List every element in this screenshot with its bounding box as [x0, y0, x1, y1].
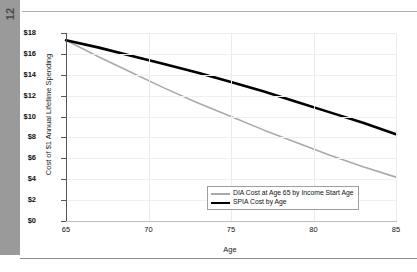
x-axis-tick-label: 85	[376, 226, 416, 234]
y-axis-tick-label: $2	[0, 196, 36, 204]
y-axis-tick-label: $10	[0, 113, 36, 121]
legend-item-spia: SPIA Cost by Age	[211, 198, 354, 207]
y-axis-tick	[61, 117, 66, 118]
y-axis-tick	[61, 33, 66, 34]
gridline-horizontal	[66, 137, 396, 138]
page-content: Cost of $1 Annual Lifetime Spending Age …	[20, 12, 417, 255]
gridline-vertical	[396, 33, 397, 221]
x-axis-tick-label: 65	[46, 226, 86, 234]
y-axis-tick	[61, 179, 66, 180]
gridline-horizontal	[66, 158, 396, 159]
y-axis-tick	[61, 137, 66, 138]
y-axis-tick-label: $16	[0, 50, 36, 58]
footer-rule	[20, 258, 417, 259]
x-axis-tick-label: 80	[294, 226, 334, 234]
y-axis-tick-label: $12	[0, 92, 36, 100]
y-axis-tick-label: $18	[0, 29, 36, 37]
y-axis-tick-label: $4	[0, 175, 36, 183]
gridline-horizontal	[66, 96, 396, 97]
gridline-horizontal	[66, 33, 396, 34]
legend-line-swatch-spia	[211, 202, 230, 204]
gridline-horizontal	[66, 75, 396, 76]
y-axis-tick-label: $8	[0, 133, 36, 141]
document-page: 12 Cost of $1 Annual Lifetime Spending A…	[0, 0, 417, 272]
y-axis-tick	[61, 54, 66, 55]
y-axis-tick	[61, 200, 66, 201]
page-number: 12	[4, 0, 16, 31]
legend-label-dia: DIA Cost at Age 65 by Income Start Age	[233, 190, 354, 197]
legend-item-dia: DIA Cost at Age 65 by Income Start Age	[211, 189, 354, 198]
gridline-vertical	[149, 33, 150, 221]
x-axis-line	[66, 221, 397, 222]
y-axis-tick	[61, 158, 66, 159]
y-axis-tick-label: $0	[0, 217, 36, 225]
y-axis-tick-label: $14	[0, 71, 36, 79]
y-axis-line	[66, 33, 67, 222]
gridline-horizontal	[66, 179, 396, 180]
y-axis-tick-label: $6	[0, 154, 36, 162]
y-axis-tick	[61, 96, 66, 97]
y-axis-title: Cost of $1 Annual Lifetime Spending	[44, 35, 53, 195]
x-axis-title: Age	[65, 245, 395, 254]
line-chart-figure: Cost of $1 Annual Lifetime Spending Age …	[20, 12, 417, 255]
gridline-horizontal	[66, 54, 396, 55]
chart-legend: DIA Cost at Age 65 by Income Start Age S…	[207, 186, 359, 210]
y-axis-tick	[61, 75, 66, 76]
x-axis-tick-label: 70	[129, 226, 169, 234]
legend-label-spia: SPIA Cost by Age	[233, 199, 287, 206]
gridline-horizontal	[66, 117, 396, 118]
x-axis-tick-label: 75	[211, 226, 251, 234]
y-axis-tick	[61, 221, 66, 222]
legend-line-swatch-dia	[211, 193, 230, 195]
